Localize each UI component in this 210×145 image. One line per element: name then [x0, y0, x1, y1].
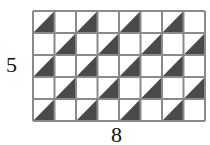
row-count-label: 5 [6, 54, 17, 76]
shaded-triangle [33, 99, 55, 121]
shaded-triangle [76, 55, 98, 77]
shaded-triangle [119, 55, 141, 77]
shaded-triangle [98, 77, 120, 99]
shaded-triangle [98, 33, 120, 55]
shaded-triangle [76, 99, 98, 121]
shaded-triangle [184, 33, 206, 55]
shaded-triangle [141, 33, 163, 55]
shaded-triangle [162, 55, 184, 77]
shaded-triangle [141, 77, 163, 99]
grid-figure [32, 10, 206, 122]
shaded-triangle [76, 11, 98, 33]
shaded-triangle [55, 33, 77, 55]
shaded-triangle [55, 77, 77, 99]
shaded-triangle [119, 11, 141, 33]
column-count-label: 8 [111, 124, 122, 145]
shaded-triangle [119, 99, 141, 121]
shaded-triangle [162, 11, 184, 33]
shaded-triangle [33, 55, 55, 77]
shaded-triangle [33, 11, 55, 33]
shaded-triangle [162, 99, 184, 121]
shaded-triangle [184, 77, 206, 99]
